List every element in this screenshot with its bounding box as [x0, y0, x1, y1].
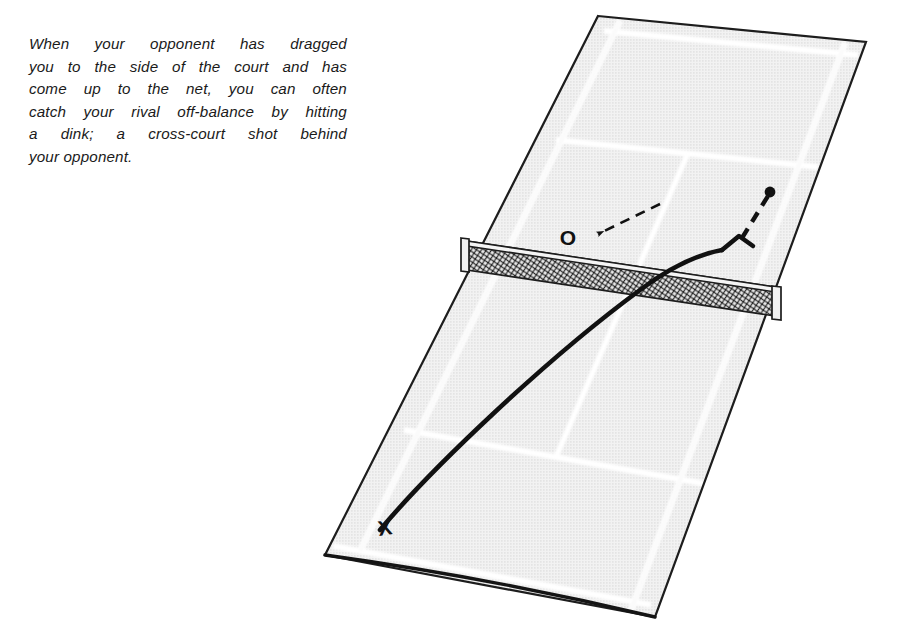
opponent-position-dot: [765, 187, 776, 198]
court-surface: [325, 16, 866, 617]
opponent-o-marker: O: [560, 226, 576, 249]
caption-text: Whenyouropponenthasdraggedyoutothesideof…: [29, 33, 347, 169]
tennis-court-perspective: [325, 16, 866, 617]
caption-line: your opponent.: [29, 146, 347, 169]
caption-line: Whenyouropponenthasdragged: [29, 33, 347, 56]
net-post-right: [772, 286, 781, 320]
caption-line: adink;across-courtshotbehind: [29, 123, 347, 146]
caption-line: catchyourrivaloff-balancebyhitting: [29, 101, 347, 124]
net-post-left: [461, 238, 469, 272]
caption-line: youtothesideofthecourtandhas: [29, 56, 347, 79]
caption-line: comeuptothenet,youcanoften: [29, 78, 347, 101]
